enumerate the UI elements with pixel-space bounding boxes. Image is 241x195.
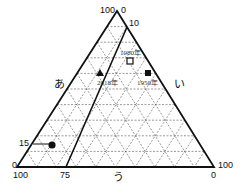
filled-square-marker-1950 [145, 70, 151, 76]
axis-label-right: い [174, 79, 185, 90]
filled-circle-marker [48, 141, 55, 148]
axis-label-left: あ [54, 79, 65, 90]
tick-right-100: 100 [218, 161, 233, 170]
tick-left-0: 0 [12, 161, 17, 170]
label-1980: 1980年 [120, 50, 141, 57]
tick-apex-100: 100 [100, 6, 115, 15]
tick-bottom-right-0: 0 [211, 171, 216, 180]
tick-bottom-100: 100 [13, 171, 28, 180]
label-1950: 1950年 [137, 80, 158, 87]
filled-triangle-marker-2018 [96, 69, 104, 76]
open-square-marker-1980 [127, 58, 133, 64]
tick-15: 15 [19, 139, 29, 148]
ternary-plot [0, 0, 241, 195]
tick-bottom-75: 75 [60, 171, 70, 180]
tick-10: 10 [129, 19, 139, 28]
guide-line-10 [66, 27, 127, 167]
label-2018: 2018年 [97, 80, 118, 87]
axis-label-bottom: う [113, 172, 124, 183]
tick-apex-0: 0 [121, 6, 126, 15]
